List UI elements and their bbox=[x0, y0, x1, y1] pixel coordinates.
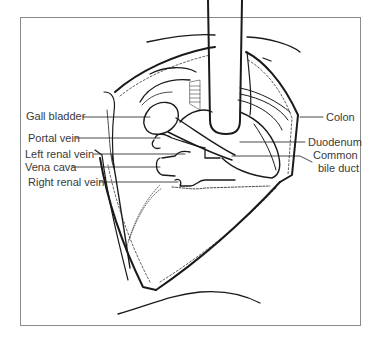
colon-shape bbox=[240, 88, 290, 112]
label-common-bile-duct-2: bile duct bbox=[318, 162, 359, 174]
label-gall-bladder: Gall bladder bbox=[26, 110, 85, 122]
label-vena-cava: Vena cava bbox=[25, 161, 76, 173]
skin-line-top bbox=[147, 35, 215, 42]
gall-bladder-shape bbox=[144, 102, 178, 134]
duodenum-shape bbox=[180, 110, 280, 178]
right-renal-vein-shape bbox=[175, 179, 235, 186]
label-common-bile-duct-1: Common bbox=[313, 149, 358, 161]
portal-vein-shape bbox=[155, 134, 205, 148]
label-colon: Colon bbox=[326, 111, 355, 123]
skin-line-bottom bbox=[118, 292, 260, 314]
label-portal-vein: Portal vein bbox=[28, 132, 80, 144]
label-right-renal-vein: Right renal vein bbox=[28, 176, 104, 188]
label-duodenum: Duodenum bbox=[308, 136, 362, 148]
label-left-renal-vein: Left renal vein bbox=[25, 148, 94, 160]
retractor bbox=[208, 0, 242, 134]
